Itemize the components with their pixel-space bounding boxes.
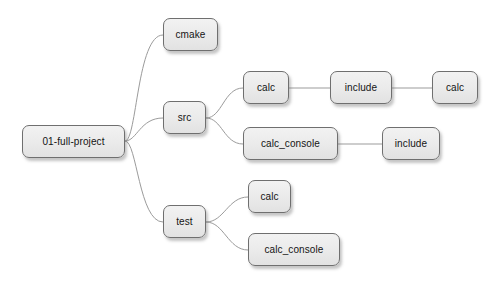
node-label-cmake: cmake (176, 30, 206, 40)
node-label-src-calc-include-calc: calc (446, 83, 464, 93)
node-label-test-calc: calc (260, 192, 278, 202)
node-label-src-calc-console: calc_console (261, 139, 320, 149)
node-label-test-calc-console: calc_console (264, 245, 323, 255)
edge-test-calc_console (206, 222, 248, 250)
node-test-calc[interactable]: calc (248, 180, 291, 213)
node-label-src-calc-console-include: include (395, 139, 427, 149)
node-root[interactable]: 01-full-project (22, 125, 125, 158)
node-src-calc-console-include[interactable]: include (382, 127, 440, 160)
edge-src-calc_console (206, 118, 243, 144)
node-src-calc[interactable]: calc (243, 71, 289, 104)
node-label-root: 01-full-project (42, 137, 104, 147)
node-src[interactable]: src (163, 101, 206, 134)
edge-test-calc (206, 197, 248, 222)
project-tree-diagram: 01-full-projectcmakesrctestcalcincludeca… (0, 0, 497, 284)
edge-src-calc (206, 88, 243, 118)
node-label-src-calc-include: include (345, 83, 377, 93)
node-label-src-calc: calc (257, 83, 275, 93)
edge-root-test (125, 141, 163, 222)
node-label-src: src (178, 113, 192, 123)
node-src-calc-console[interactable]: calc_console (243, 127, 338, 160)
node-label-test: test (176, 217, 193, 227)
node-test[interactable]: test (163, 205, 206, 238)
node-src-calc-include-calc[interactable]: calc (432, 71, 478, 104)
node-src-calc-include[interactable]: include (330, 71, 392, 104)
node-cmake[interactable]: cmake (163, 18, 218, 51)
node-test-calc-console[interactable]: calc_console (248, 233, 340, 266)
